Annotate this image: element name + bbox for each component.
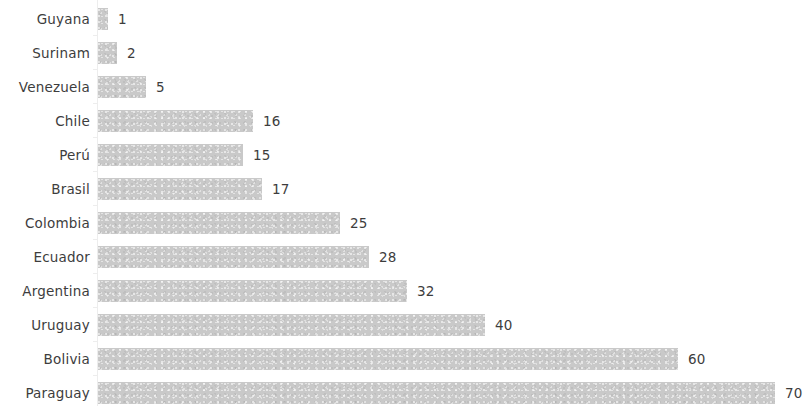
bar-value-label: 5 (156, 80, 165, 95)
axis-tick (93, 375, 98, 376)
category-label: Perú (0, 148, 90, 163)
bar-row: Argentina32 (0, 280, 810, 302)
bar-row: Paraguay70 (0, 382, 810, 404)
category-label: Brasil (0, 182, 90, 197)
bar (98, 348, 678, 370)
bar-row: Chile16 (0, 110, 810, 132)
bar (98, 8, 108, 30)
category-label: Venezuela (0, 80, 90, 95)
bar (98, 382, 775, 404)
axis-tick (93, 137, 98, 138)
bar (98, 76, 146, 98)
bar-value-label: 28 (379, 250, 397, 265)
bar (98, 144, 243, 166)
bar-row: Colombia25 (0, 212, 810, 234)
bar-value-label: 32 (417, 284, 435, 299)
bar-value-label: 70 (785, 386, 803, 401)
category-label: Guyana (0, 12, 90, 27)
category-label: Paraguay (0, 386, 90, 401)
bar (98, 246, 369, 268)
bar (98, 212, 340, 234)
bar-row: Guyana1 (0, 8, 810, 30)
bar-value-label: 25 (350, 216, 368, 231)
axis-tick (93, 307, 98, 308)
bar-row: Venezuela5 (0, 76, 810, 98)
bar-row: Ecuador28 (0, 246, 810, 268)
axis-tick (93, 69, 98, 70)
axis-tick (93, 35, 98, 36)
bar-value-label: 40 (495, 318, 513, 333)
bar-row: Perú15 (0, 144, 810, 166)
bar-row: Uruguay40 (0, 314, 810, 336)
bar-row: Surinam2 (0, 42, 810, 64)
axis-tick (93, 273, 98, 274)
bar-value-label: 1 (118, 12, 127, 27)
category-label: Ecuador (0, 250, 90, 265)
category-label: Uruguay (0, 318, 90, 333)
axis-tick (93, 205, 98, 206)
bar (98, 178, 262, 200)
axis-tick (93, 103, 98, 104)
bar-row: Brasil17 (0, 178, 810, 200)
bar (98, 280, 407, 302)
bar-value-label: 60 (688, 352, 706, 367)
bar-chart: Guyana1Surinam2Venezuela5Chile16Perú15Br… (0, 0, 810, 406)
chart-plot-area: Guyana1Surinam2Venezuela5Chile16Perú15Br… (0, 0, 810, 406)
bar (98, 42, 117, 64)
category-label: Colombia (0, 216, 90, 231)
bar-value-label: 16 (263, 114, 281, 129)
bar-row: Bolivia60 (0, 348, 810, 370)
category-label: Argentina (0, 284, 90, 299)
bar-value-label: 17 (272, 182, 290, 197)
axis-tick (93, 171, 98, 172)
axis-tick (93, 239, 98, 240)
bar (98, 110, 253, 132)
axis-tick (93, 341, 98, 342)
bar (98, 314, 485, 336)
category-label: Chile (0, 114, 90, 129)
bar-value-label: 2 (127, 46, 136, 61)
category-label: Bolivia (0, 352, 90, 367)
bar-value-label: 15 (253, 148, 271, 163)
category-label: Surinam (0, 46, 90, 61)
